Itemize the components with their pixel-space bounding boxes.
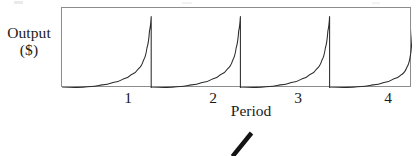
- y-axis-label-line-1: Output: [0, 24, 58, 41]
- crop-remnant-right: [372, 2, 380, 4]
- output-series-path: [62, 17, 412, 88]
- x-tick-label-1: 1: [115, 90, 141, 106]
- plot-area: [61, 7, 411, 87]
- crop-remnant-left: [14, 1, 23, 4]
- ink-slash-artifact: [231, 131, 253, 156]
- crop-remnant-mid: [182, 2, 192, 4]
- y-axis-label-line-2: ($): [0, 41, 58, 58]
- sawtooth-series-svg: [62, 8, 412, 88]
- y-axis-label: Output ($): [0, 24, 58, 59]
- x-axis-label: Period: [205, 103, 297, 119]
- chart-figure: Output ($) 1 2 3 4 Period: [0, 0, 419, 156]
- x-tick-label-4: 4: [375, 90, 401, 106]
